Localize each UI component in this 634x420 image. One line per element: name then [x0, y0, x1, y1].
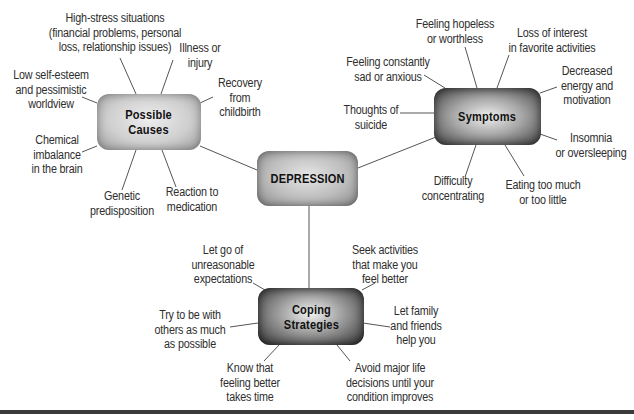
node-symptoms: Symptoms — [434, 88, 541, 145]
bottom-rule — [0, 410, 634, 414]
symptom-concentrating: Difficulty concentrating — [419, 174, 488, 203]
cause-genetic: Genetic predisposition — [88, 189, 157, 218]
symptom-hopeless: Feeling hopeless or worthless — [408, 17, 503, 46]
coping-family-friends: Let family and friends help you — [382, 304, 451, 348]
symptom-loss-of-interest: Loss of interest in favorite activities — [496, 26, 608, 55]
symptom-decreased-energy: Decreased energy and motivation — [553, 64, 622, 108]
symptom-suicide-thoughts: Thoughts of suicide — [338, 103, 403, 132]
coping-let-go: Let go of unreasonable expectations — [189, 243, 258, 287]
cause-low-self-esteem: Low self-esteem and pessimistic worldvie… — [11, 68, 90, 112]
node-coping-label: Coping Strategies — [283, 302, 338, 332]
cause-illness: Illness or injury — [174, 41, 226, 70]
node-causes-label: Possible Causes — [126, 107, 173, 137]
node-depression: DEPRESSION — [257, 151, 358, 206]
coping-feeling-better-takes-time: Know that feeling better takes time — [216, 361, 285, 405]
symptom-insomnia: Insomnia or oversleeping — [552, 131, 629, 160]
node-depression-label: DEPRESSION — [270, 171, 344, 186]
node-symptoms-label: Symptoms — [459, 109, 517, 124]
cause-high-stress: High-stress situations (financial proble… — [42, 11, 188, 55]
node-coping-strategies: Coping Strategies — [258, 288, 364, 345]
symptom-eating: Eating too much or too little — [496, 178, 591, 207]
cause-childbirth: Recovery from childbirth — [214, 76, 266, 120]
coping-seek-activities: Seek activities that make you feel bette… — [346, 243, 423, 287]
coping-be-with-others: Try to be with others as much as possibl… — [149, 308, 232, 352]
symptom-sad-anxious: Feeling constantly sad or anxious — [345, 55, 431, 84]
cause-chemical-imbalance: Chemical imbalance in the brain — [27, 133, 87, 177]
depression-concept-map: DEPRESSION Possible Causes Symptoms Copi… — [0, 0, 634, 420]
coping-avoid-major-decisions: Avoid major life decisions until your co… — [338, 361, 441, 405]
node-possible-causes: Possible Causes — [97, 94, 201, 150]
cause-medication: Reaction to medication — [158, 185, 227, 214]
